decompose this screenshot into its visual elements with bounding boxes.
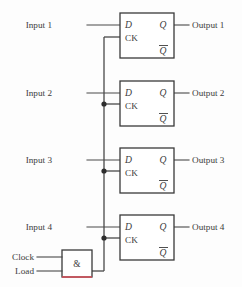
flip-flop-3-pin-ck: CK — [125, 168, 138, 178]
junction-dot-ff4 — [101, 235, 106, 240]
flip-flop-2-pin-d: D — [124, 87, 132, 98]
control-label-group: Clock Load — [12, 252, 34, 276]
flip-flop-3-pin-d: D — [124, 154, 132, 165]
flip-flop-3-pin-q: Q — [160, 154, 167, 165]
output-wire-group — [174, 25, 189, 227]
flip-flop-1-pin-ck: CK — [125, 33, 138, 43]
and-gate[interactable]: & — [62, 250, 92, 277]
junction-dot-ff3 — [101, 168, 106, 173]
input-label-3: Input 3 — [26, 155, 53, 165]
flip-flop-2[interactable]: D CK Q Q — [120, 81, 174, 126]
logic-circuit-diagram: D CK Q Q D CK Q Q D CK Q Q D CK — [0, 0, 242, 287]
load-label: Load — [15, 266, 34, 276]
clock-bus-group — [92, 37, 120, 271]
flip-flop-2-pin-ck: CK — [125, 101, 138, 111]
flip-flop-4-pin-ck: CK — [125, 235, 138, 245]
input-label-group: Input 1 Input 2 Input 3 Input 4 — [26, 20, 53, 232]
output-label-1: Output 1 — [192, 20, 225, 30]
junction-dot-ff2 — [101, 101, 106, 106]
flip-flop-3[interactable]: D CK Q Q — [120, 148, 174, 193]
flip-flop-4[interactable]: D CK Q Q — [120, 215, 174, 260]
flip-flop-3-pin-qbar: Q — [160, 180, 167, 191]
flip-flop-1[interactable]: D CK Q Q — [120, 13, 174, 58]
output-label-3: Output 3 — [192, 155, 225, 165]
flip-flop-1-pin-d: D — [124, 19, 132, 30]
input-label-2: Input 2 — [26, 88, 53, 98]
flip-flop-1-pin-q: Q — [160, 19, 167, 30]
clock-label: Clock — [12, 252, 34, 262]
flip-flop-4-pin-qbar: Q — [160, 247, 167, 258]
input-label-4: Input 4 — [26, 222, 53, 232]
output-label-4: Output 4 — [192, 222, 225, 232]
control-wire-group — [37, 257, 62, 271]
flip-flop-4-pin-d: D — [124, 221, 132, 232]
and-gate-symbol: & — [73, 259, 81, 269]
output-label-2: Output 2 — [192, 88, 225, 98]
flip-flop-2-pin-q: Q — [160, 87, 167, 98]
circuit-schematic-canvas: D CK Q Q D CK Q Q D CK Q Q D CK — [0, 0, 242, 287]
flip-flop-4-pin-q: Q — [160, 221, 167, 232]
flip-flop-2-pin-qbar: Q — [160, 113, 167, 124]
input-label-1: Input 1 — [26, 20, 53, 30]
flip-flop-1-pin-qbar: Q — [160, 45, 167, 56]
output-label-group: Output 1 Output 2 Output 3 Output 4 — [192, 20, 225, 232]
